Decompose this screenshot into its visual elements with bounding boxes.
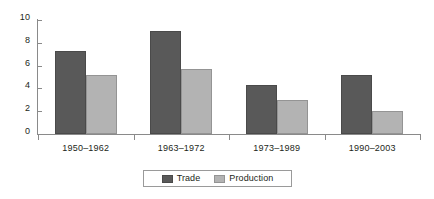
bar-trade-1 xyxy=(55,51,86,134)
bar-production-4 xyxy=(372,111,403,134)
x-axis-tick-mark xyxy=(134,135,135,140)
y-axis-tick-mark xyxy=(38,88,42,89)
y-axis-tick-label: 4 xyxy=(25,81,30,90)
legend-label-trade: Trade xyxy=(177,174,201,183)
y-axis-tick-mark xyxy=(38,20,42,21)
x-axis-tick-mark xyxy=(325,135,326,140)
y-axis-line xyxy=(37,19,38,135)
y-axis-tick-label: 10 xyxy=(20,13,30,22)
y-axis-tick-label: 8 xyxy=(25,36,30,45)
bar-trade-2 xyxy=(150,31,181,134)
legend-swatch-production xyxy=(214,175,225,183)
y-axis-tick-mark xyxy=(38,66,42,67)
y-axis-tick-mark xyxy=(38,43,42,44)
bar-trade-3 xyxy=(246,85,277,134)
legend-entry-production: Production xyxy=(214,174,273,183)
x-axis-tick-mark xyxy=(420,135,421,140)
legend-entry-trade: Trade xyxy=(162,174,201,183)
category-label: 1990–2003 xyxy=(325,143,421,153)
category-label: 1950–1962 xyxy=(38,143,134,153)
y-axis-tick-label: 6 xyxy=(25,59,30,68)
chart-legend: Trade Production xyxy=(143,170,292,187)
y-axis-tick-label: 2 xyxy=(25,104,30,113)
bar-chart: 0246810 1950–19621963–19721973–19891990–… xyxy=(0,0,434,199)
category-label: 1973–1989 xyxy=(229,143,325,153)
bar-production-1 xyxy=(86,75,117,134)
y-axis-tick-mark xyxy=(38,111,42,112)
legend-swatch-trade xyxy=(162,175,173,183)
x-axis-tick-mark xyxy=(38,135,39,140)
bar-group xyxy=(246,20,308,134)
bar-group xyxy=(341,20,403,134)
bar-trade-4 xyxy=(341,75,372,134)
legend-label-production: Production xyxy=(229,174,273,183)
category-label: 1963–1972 xyxy=(134,143,230,153)
bar-production-2 xyxy=(181,69,212,134)
bar-production-3 xyxy=(277,100,308,134)
x-axis-tick-mark xyxy=(229,135,230,140)
bar-group xyxy=(55,20,117,134)
bar-group xyxy=(150,20,212,134)
y-axis-tick-label: 0 xyxy=(25,127,30,136)
